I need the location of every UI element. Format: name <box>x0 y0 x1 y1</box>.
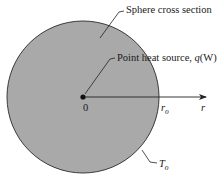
outer-radius-label: ro <box>161 102 169 116</box>
surface-temperature-sub: o <box>165 163 169 172</box>
sphere-diagram: Sphere cross section Point heat source, … <box>0 0 221 183</box>
origin-label: 0 <box>83 102 88 113</box>
radial-axis-label: r <box>201 102 206 113</box>
surface-temperature-label: To <box>159 158 169 172</box>
temperature-leader-line <box>142 150 157 163</box>
heat-source-unit: (W) <box>200 52 217 64</box>
heat-source-label: Point heat source, q(W) <box>117 52 217 64</box>
outer-radius-sub: o <box>165 107 169 116</box>
heat-source-prefix: Point heat source, <box>117 52 195 63</box>
point-heat-source-dot <box>80 94 85 99</box>
sphere-label: Sphere cross section <box>126 4 212 15</box>
